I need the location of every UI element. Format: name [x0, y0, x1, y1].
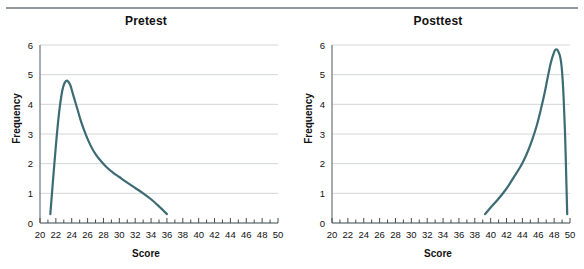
pretest-y-tick-label-4: 4 [28, 99, 33, 110]
pretest-x-tick-label-34: 34 [146, 229, 157, 240]
pretest-y-tick-label-0: 0 [28, 218, 33, 229]
posttest-x-tick-label-42: 42 [501, 229, 512, 240]
posttest-y-tick-label-5: 5 [320, 69, 325, 80]
pretest-y-tick-label-1: 1 [28, 188, 33, 199]
posttest-distribution-curve [485, 49, 567, 214]
posttest-y-tick-label-4: 4 [320, 99, 325, 110]
pretest-x-tick-label-36: 36 [162, 229, 173, 240]
pretest-x-tick-label-26: 26 [82, 229, 93, 240]
posttest-x-tick-label-32: 32 [422, 229, 433, 240]
posttest-x-tick-label-40: 40 [485, 229, 496, 240]
pretest-x-tick-label-32: 32 [130, 229, 141, 240]
posttest-y-tick-label-3: 3 [320, 129, 325, 140]
posttest-y-tick-label-6: 6 [320, 40, 325, 51]
pretest-x-tick-label-28: 28 [98, 229, 109, 240]
posttest-x-tick-label-34: 34 [438, 229, 449, 240]
pretest-x-tick-label-22: 22 [51, 229, 62, 240]
chart-panel-pretest: Pretest Frequency Score 0123456202224262… [0, 0, 292, 269]
pretest-y-tick-label-3: 3 [28, 129, 33, 140]
plot-area-pretest: 012345620222426283032343638404244464850 [0, 0, 292, 269]
pretest-x-tick-label-44: 44 [225, 229, 236, 240]
posttest-x-tick-label-48: 48 [549, 229, 560, 240]
posttest-y-tick-label-1: 1 [320, 188, 325, 199]
pretest-y-tick-label-2: 2 [28, 158, 33, 169]
posttest-x-tick-label-20: 20 [327, 229, 338, 240]
posttest-x-tick-label-36: 36 [454, 229, 465, 240]
plot-area-posttest: 012345620222426283032343638404244464850 [292, 0, 584, 269]
pretest-x-tick-label-40: 40 [193, 229, 204, 240]
posttest-x-tick-label-24: 24 [358, 229, 369, 240]
chart-panel-posttest: Posttest Frequency Score 012345620222426… [292, 0, 584, 269]
pretest-x-tick-label-48: 48 [257, 229, 268, 240]
pretest-x-tick-label-30: 30 [114, 229, 125, 240]
posttest-x-tick-label-28: 28 [390, 229, 401, 240]
pretest-distribution-curve [50, 81, 167, 215]
pretest-x-tick-label-50: 50 [273, 229, 284, 240]
figure-container: Pretest Frequency Score 0123456202224262… [0, 0, 584, 269]
posttest-x-tick-label-38: 38 [470, 229, 481, 240]
posttest-x-tick-label-30: 30 [406, 229, 417, 240]
posttest-x-tick-label-22: 22 [343, 229, 354, 240]
posttest-x-tick-label-46: 46 [533, 229, 544, 240]
pretest-x-tick-label-24: 24 [66, 229, 77, 240]
pretest-x-tick-label-20: 20 [35, 229, 46, 240]
posttest-x-tick-label-44: 44 [517, 229, 528, 240]
pretest-x-tick-label-42: 42 [209, 229, 220, 240]
pretest-y-tick-label-6: 6 [28, 40, 33, 51]
posttest-x-tick-label-26: 26 [374, 229, 385, 240]
pretest-x-tick-label-46: 46 [241, 229, 252, 240]
posttest-y-tick-label-0: 0 [320, 218, 325, 229]
pretest-x-tick-label-38: 38 [178, 229, 189, 240]
posttest-y-tick-label-2: 2 [320, 158, 325, 169]
pretest-y-tick-label-5: 5 [28, 69, 33, 80]
posttest-x-tick-label-50: 50 [565, 229, 576, 240]
